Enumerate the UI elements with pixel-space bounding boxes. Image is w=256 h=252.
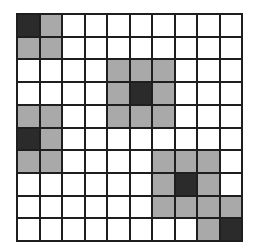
grid-cell-empty[interactable] — [18, 174, 39, 195]
grid-cell-empty[interactable] — [108, 15, 129, 36]
grid-cell-empty[interactable] — [198, 38, 219, 59]
grid-cell-empty[interactable] — [86, 151, 107, 172]
grid-cell-empty[interactable] — [198, 129, 219, 150]
grid-cell-empty[interactable] — [131, 129, 152, 150]
grid-cell-empty[interactable] — [221, 15, 242, 36]
grid-cell-empty[interactable] — [63, 151, 84, 172]
grid-cell-gray[interactable] — [108, 60, 129, 81]
grid-cell-gray[interactable] — [198, 197, 219, 218]
grid-cell-empty[interactable] — [131, 174, 152, 195]
grid-cell-empty[interactable] — [131, 219, 152, 240]
grid-cell-gray[interactable] — [108, 106, 129, 127]
grid-cell-empty[interactable] — [153, 15, 174, 36]
grid-cell-gray[interactable] — [41, 15, 62, 36]
grid-cell-gray[interactable] — [131, 60, 152, 81]
grid-cell-empty[interactable] — [41, 174, 62, 195]
grid-cell-empty[interactable] — [86, 219, 107, 240]
grid-cell-empty[interactable] — [221, 151, 242, 172]
grid-cell-empty[interactable] — [41, 197, 62, 218]
grid-cell-gray[interactable] — [41, 129, 62, 150]
grid-cell-gray[interactable] — [41, 38, 62, 59]
grid-cell-empty[interactable] — [176, 106, 197, 127]
grid-cell-empty[interactable] — [41, 83, 62, 104]
grid-cell-empty[interactable] — [63, 38, 84, 59]
grid-cell-empty[interactable] — [176, 60, 197, 81]
grid-cell-empty[interactable] — [41, 219, 62, 240]
grid-cell-empty[interactable] — [41, 60, 62, 81]
grid-cell-empty[interactable] — [108, 151, 129, 172]
grid-cell-empty[interactable] — [176, 38, 197, 59]
grid-cell-empty[interactable] — [131, 38, 152, 59]
grid-cell-gray[interactable] — [198, 174, 219, 195]
grid-cell-empty[interactable] — [86, 174, 107, 195]
grid-cell-empty[interactable] — [108, 129, 129, 150]
grid-cell-empty[interactable] — [18, 219, 39, 240]
grid-cell-empty[interactable] — [176, 219, 197, 240]
grid-cell-empty[interactable] — [221, 129, 242, 150]
grid-cell-empty[interactable] — [221, 106, 242, 127]
grid-cell-empty[interactable] — [63, 129, 84, 150]
grid-cell-empty[interactable] — [131, 197, 152, 218]
grid-cell-dark[interactable] — [221, 219, 242, 240]
grid-cell-gray[interactable] — [176, 151, 197, 172]
grid-cell-gray[interactable] — [198, 219, 219, 240]
grid-cell-empty[interactable] — [108, 219, 129, 240]
grid-cell-gray[interactable] — [153, 174, 174, 195]
grid-cell-empty[interactable] — [221, 174, 242, 195]
grid-cell-gray[interactable] — [18, 38, 39, 59]
grid-cell-empty[interactable] — [63, 197, 84, 218]
grid-cell-empty[interactable] — [153, 129, 174, 150]
grid-cell-empty[interactable] — [63, 83, 84, 104]
grid-cell-empty[interactable] — [86, 38, 107, 59]
grid-cell-empty[interactable] — [63, 106, 84, 127]
grid-cell-empty[interactable] — [198, 106, 219, 127]
grid-cell-empty[interactable] — [221, 83, 242, 104]
grid-cell-empty[interactable] — [86, 197, 107, 218]
grid-cell-gray[interactable] — [18, 106, 39, 127]
grid-cell-gray[interactable] — [198, 151, 219, 172]
grid-cell-gray[interactable] — [153, 60, 174, 81]
grid-cell-gray[interactable] — [108, 83, 129, 104]
grid-cell-empty[interactable] — [221, 60, 242, 81]
grid-cell-empty[interactable] — [63, 174, 84, 195]
grid-cell-empty[interactable] — [131, 15, 152, 36]
grid-cell-gray[interactable] — [153, 151, 174, 172]
grid-cell-empty[interactable] — [86, 83, 107, 104]
grid-cell-empty[interactable] — [131, 151, 152, 172]
grid-cell-empty[interactable] — [86, 129, 107, 150]
grid-cell-gray[interactable] — [153, 197, 174, 218]
grid-cell-empty[interactable] — [176, 129, 197, 150]
grid-cell-empty[interactable] — [86, 15, 107, 36]
grid-cell-empty[interactable] — [176, 83, 197, 104]
grid-cell-empty[interactable] — [108, 197, 129, 218]
grid-cell-gray[interactable] — [153, 83, 174, 104]
grid-cell-gray[interactable] — [221, 197, 242, 218]
grid-cell-empty[interactable] — [198, 60, 219, 81]
grid-cell-empty[interactable] — [198, 15, 219, 36]
grid-cell-gray[interactable] — [153, 106, 174, 127]
grid-cell-empty[interactable] — [18, 83, 39, 104]
grid-cell-gray[interactable] — [176, 197, 197, 218]
grid-cell-empty[interactable] — [108, 38, 129, 59]
grid-cell-gray[interactable] — [131, 106, 152, 127]
grid-cell-empty[interactable] — [63, 219, 84, 240]
grid-cell-empty[interactable] — [198, 83, 219, 104]
grid-cell-gray[interactable] — [41, 106, 62, 127]
grid-cell-empty[interactable] — [63, 15, 84, 36]
grid-cell-dark[interactable] — [18, 15, 39, 36]
grid-cell-empty[interactable] — [63, 60, 84, 81]
grid-cell-empty[interactable] — [18, 197, 39, 218]
grid-cell-empty[interactable] — [153, 38, 174, 59]
grid-cell-empty[interactable] — [176, 15, 197, 36]
grid-cell-dark[interactable] — [18, 129, 39, 150]
grid-cell-empty[interactable] — [18, 60, 39, 81]
grid-cell-gray[interactable] — [41, 151, 62, 172]
grid-cell-empty[interactable] — [86, 60, 107, 81]
grid-cell-empty[interactable] — [153, 219, 174, 240]
grid-cell-gray[interactable] — [18, 151, 39, 172]
grid-cell-empty[interactable] — [108, 174, 129, 195]
grid-cell-dark[interactable] — [131, 83, 152, 104]
grid-cell-empty[interactable] — [86, 106, 107, 127]
grid-cell-empty[interactable] — [221, 38, 242, 59]
grid-cell-dark[interactable] — [176, 174, 197, 195]
